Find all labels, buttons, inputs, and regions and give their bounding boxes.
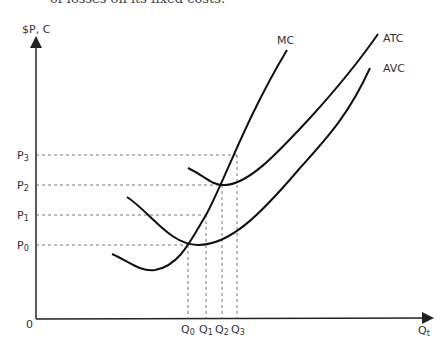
price-guides <box>36 155 237 245</box>
quantity-label-q0: Q0 <box>181 323 195 337</box>
cost-curves-diagram: MC ATC AVC $P, C 0 Qt P3 P2 P1 P0 Q0 Q1 … <box>0 0 443 349</box>
avc-label: AVC <box>383 62 405 75</box>
price-label-p3: P3 <box>17 149 29 163</box>
quantity-label-q3: Q3 <box>231 323 245 337</box>
mc-curve <box>112 50 287 270</box>
price-label-p0: P0 <box>17 239 29 253</box>
x-axis-label: Qt <box>418 324 430 338</box>
atc-label: ATC <box>383 32 404 45</box>
mc-label: MC <box>277 34 294 47</box>
x-axis <box>36 318 428 319</box>
avc-curve <box>127 68 370 245</box>
quantity-guides <box>188 155 237 319</box>
origin-label: 0 <box>26 318 33 331</box>
quantity-label-q2: Q2 <box>215 323 229 337</box>
price-label-p2: P2 <box>17 179 29 193</box>
price-label-p1: P1 <box>17 209 29 223</box>
quantity-label-q1: Q1 <box>199 323 213 337</box>
y-axis-label: $P, C <box>22 23 51 36</box>
